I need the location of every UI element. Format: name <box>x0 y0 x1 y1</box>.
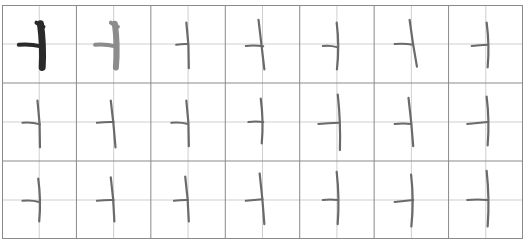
vertical-stroke <box>487 97 489 146</box>
horizontal-stroke <box>22 200 39 201</box>
horizontal-stroke <box>171 122 188 123</box>
horizontal-stroke <box>97 122 114 123</box>
horizontal-stroke <box>395 44 414 45</box>
horizontal-stroke <box>176 44 188 45</box>
practice-sheet <box>2 5 523 239</box>
vertical-stroke <box>111 101 116 148</box>
horizontal-stroke <box>395 123 412 124</box>
cell-character-practice <box>171 101 189 147</box>
horizontal-stroke <box>248 122 263 123</box>
cell-character-practice <box>97 177 114 221</box>
horizontal-stroke <box>467 200 487 201</box>
cell-character-model <box>19 23 44 68</box>
practice-grid <box>2 5 523 239</box>
vertical-stroke <box>115 24 117 68</box>
cell-character-practice <box>97 101 116 148</box>
cell-character-practice <box>323 172 339 224</box>
horizontal-stroke <box>472 45 488 46</box>
cell-character-practice <box>395 175 414 227</box>
cell-character-practice <box>248 99 263 144</box>
horizontal-stroke <box>174 200 188 201</box>
vertical-stroke <box>40 24 42 68</box>
cell-character-practice <box>323 23 338 70</box>
cell-character-practice <box>467 97 488 146</box>
horizontal-stroke <box>323 200 338 201</box>
cell-character-trace <box>95 23 118 68</box>
horizontal-stroke <box>323 46 337 47</box>
vertical-stroke <box>487 171 489 227</box>
cell-character-practice <box>246 20 265 70</box>
horizontal-stroke <box>97 200 114 201</box>
horizontal-stroke <box>318 123 338 124</box>
cell-character-practice <box>246 173 265 224</box>
vertical-stroke <box>410 20 417 67</box>
horizontal-stroke <box>19 44 41 46</box>
cell-character-practice <box>395 20 417 67</box>
horizontal-stroke <box>246 199 263 201</box>
horizontal-stroke <box>95 44 115 46</box>
cell-character-practice <box>22 101 40 148</box>
horizontal-stroke <box>22 122 39 124</box>
cell-character-practice <box>176 23 189 69</box>
vertical-stroke <box>259 20 265 70</box>
cell-character-practice <box>174 177 189 222</box>
cell-character-practice <box>467 171 488 227</box>
character-strokes <box>19 20 489 227</box>
